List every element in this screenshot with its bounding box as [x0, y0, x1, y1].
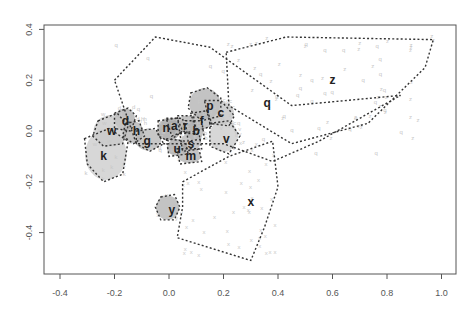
data-point: z	[321, 75, 324, 81]
data-point: x	[197, 179, 200, 185]
data-point: d	[118, 105, 121, 111]
cluster-label-w: w	[106, 124, 117, 138]
data-point: q	[400, 129, 403, 135]
data-point: x	[224, 159, 227, 165]
data-point: q	[209, 63, 212, 69]
data-point: z	[227, 41, 230, 47]
data-point: q	[146, 55, 149, 61]
data-point: z	[281, 115, 284, 121]
data-point: q	[378, 56, 381, 62]
data-point: q	[222, 68, 225, 74]
data-point: q	[317, 125, 320, 131]
data-point: z	[326, 119, 329, 125]
data-point: v	[220, 125, 223, 131]
data-point: q	[296, 92, 299, 98]
data-point: q	[342, 47, 345, 53]
data-point: q	[314, 150, 317, 156]
data-point: x	[240, 180, 243, 186]
data-point: x	[258, 243, 261, 249]
data-point: x	[227, 241, 230, 247]
data-point: z	[242, 139, 245, 145]
data-point: x	[185, 224, 188, 230]
data-point: x	[265, 250, 268, 256]
data-point: z	[369, 113, 372, 119]
data-point: x	[274, 222, 277, 228]
data-point: c	[223, 97, 226, 103]
cluster-label-a: a	[171, 119, 178, 133]
cluster-scatter-chart: qqqqqqqqqqqqqqqqqqqqqqqqqqqqqqqqqqqqqqqq…	[0, 0, 473, 313]
cluster-label-x: x	[247, 195, 254, 209]
data-point: x	[197, 252, 200, 258]
data-point: d	[132, 104, 135, 110]
data-point: z	[304, 43, 307, 49]
x-tick-label: 0.8	[381, 288, 394, 298]
data-point: h	[144, 116, 147, 122]
data-point: z	[371, 63, 374, 69]
data-point: q	[323, 47, 326, 53]
data-point: x	[242, 204, 245, 210]
x-tick-label: 0.4	[272, 288, 285, 298]
x-axis: -0.4-0.20.00.20.40.60.81.0	[52, 274, 448, 298]
data-point: z	[409, 96, 412, 102]
cluster-label-r: r	[183, 119, 188, 133]
data-point: z	[251, 87, 254, 93]
data-point: x	[264, 233, 267, 239]
cluster-label-z: z	[330, 73, 336, 87]
data-point: z	[269, 78, 272, 84]
data-point: z	[416, 117, 419, 123]
data-point: x	[239, 140, 242, 146]
data-point: x	[257, 177, 260, 183]
data-point: q	[150, 93, 153, 99]
data-point: z	[409, 47, 412, 53]
data-point: z	[380, 86, 383, 92]
data-point: y	[175, 207, 178, 213]
data-point: z	[253, 65, 256, 71]
cluster-label-k: k	[100, 149, 107, 163]
x-tick-label: -0.2	[107, 288, 123, 298]
data-point: x	[187, 180, 190, 186]
data-point: x	[200, 186, 203, 192]
data-point: x	[260, 205, 263, 211]
data-point: w	[106, 138, 112, 144]
data-point: x	[213, 214, 216, 220]
data-point: v	[215, 145, 218, 151]
data-point: z	[237, 57, 240, 63]
cluster-label-p: p	[206, 99, 213, 113]
data-point: y	[165, 192, 168, 198]
data-point: z	[275, 96, 278, 102]
data-point: w	[92, 141, 98, 147]
data-point: q	[361, 77, 364, 83]
data-point: z	[409, 114, 412, 120]
data-point: q	[262, 136, 265, 142]
data-point: q	[375, 43, 378, 49]
cluster-label-u: u	[174, 142, 181, 156]
y-tick-label: 0.0	[24, 125, 34, 138]
cluster-label-h: h	[133, 124, 140, 138]
data-point: q	[137, 106, 140, 112]
data-point: x	[270, 196, 273, 202]
data-point: x	[184, 246, 187, 252]
cluster-label-y: y	[168, 203, 175, 217]
data-point: q	[379, 71, 382, 77]
plot-area: qqqqqqqqqqqqqqqqqqqqqqqqqqqqqqqqqqqqqqqq…	[85, 33, 435, 261]
data-point: z	[384, 109, 387, 115]
data-point: x	[248, 209, 251, 215]
data-point: x	[225, 189, 228, 195]
data-point: z	[329, 135, 332, 141]
data-point: u	[183, 135, 186, 141]
data-point: k	[85, 170, 89, 176]
data-point: x	[237, 244, 240, 250]
data-point: q	[383, 87, 386, 93]
data-point: x	[250, 237, 253, 243]
cluster-label-m: m	[185, 149, 196, 163]
data-point: z	[299, 72, 302, 78]
data-point: x	[265, 161, 268, 167]
data-point: q	[310, 77, 313, 83]
data-point: x	[191, 217, 194, 223]
data-point: v	[231, 119, 234, 125]
data-point: x	[249, 184, 252, 190]
data-point: x	[259, 227, 262, 233]
data-point: q	[290, 127, 293, 133]
x-tick-label: -0.4	[52, 288, 68, 298]
data-point: c	[232, 104, 235, 110]
